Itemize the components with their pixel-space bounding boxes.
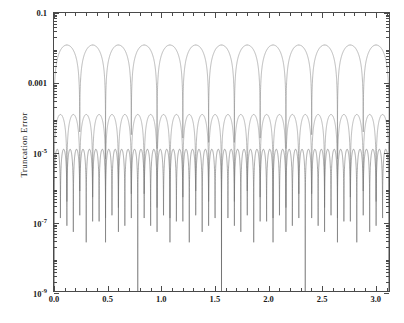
y-axis-minor-tick <box>54 31 57 32</box>
y-axis-tick-label: 10-5 <box>33 147 47 159</box>
y-axis-minor-tick <box>386 196 389 197</box>
y-axis-minor-tick <box>54 126 57 127</box>
y-axis-minor-tick <box>54 50 57 51</box>
x-axis-tick <box>54 13 55 18</box>
plot-area: 0.10.00110-510-710-9 0.00.51.01.52.02.53… <box>53 12 390 292</box>
y-axis-minor-tick <box>54 171 57 172</box>
y-axis-minor-tick <box>386 193 389 194</box>
x-axis-tick <box>322 286 323 291</box>
y-axis-minor-tick <box>54 97 57 98</box>
y-axis-minor-tick <box>386 228 389 229</box>
x-axis-minor-tick <box>204 13 205 16</box>
y-axis-minor-tick <box>386 126 389 127</box>
x-axis-minor-tick <box>118 13 119 16</box>
x-axis-minor-tick <box>333 288 334 291</box>
y-axis-minor-tick <box>386 18 389 19</box>
y-axis-minor-tick <box>386 155 389 156</box>
y-axis-minor-tick <box>386 16 389 17</box>
y-axis-minor-tick <box>386 21 389 22</box>
y-axis-minor-tick <box>386 94 389 95</box>
y-axis-minor-tick <box>386 66 389 67</box>
y-axis-minor-tick <box>386 212 389 213</box>
x-axis-minor-tick <box>65 13 66 16</box>
y-axis-minor-tick <box>54 51 57 52</box>
x-axis-tick <box>215 13 216 18</box>
y-axis-minor-tick <box>386 247 389 248</box>
y-axis-minor-tick <box>54 66 57 67</box>
y-axis-tick <box>384 293 389 294</box>
y-axis-minor-tick <box>386 37 389 38</box>
x-axis-tick <box>269 13 270 18</box>
x-axis-minor-tick <box>258 13 259 16</box>
y-axis-minor-tick <box>54 231 57 232</box>
x-axis-minor-tick <box>204 288 205 291</box>
y-axis-minor-tick <box>54 237 57 238</box>
x-axis-tick <box>161 13 162 18</box>
y-axis-minor-tick <box>54 158 57 159</box>
y-axis-minor-tick <box>386 199 389 200</box>
x-axis-minor-tick <box>311 13 312 16</box>
x-axis-tick <box>376 13 377 18</box>
y-axis-minor-tick <box>386 263 389 264</box>
x-axis-minor-tick <box>183 288 184 291</box>
y-axis-minor-tick <box>54 53 57 54</box>
x-axis-minor-tick <box>247 13 248 16</box>
y-axis-minor-tick <box>386 225 389 226</box>
y-axis-minor-tick <box>54 62 57 63</box>
y-axis-minor-tick <box>386 24 389 25</box>
y-axis-minor-tick <box>54 167 57 168</box>
y-axis-minor-tick <box>386 231 389 232</box>
y-axis-minor-tick <box>54 226 57 227</box>
y-axis-minor-tick <box>54 56 57 57</box>
y-axis-minor-tick <box>54 161 57 162</box>
y-axis-minor-tick <box>54 88 57 89</box>
y-axis-minor-tick <box>54 206 57 207</box>
x-axis-minor-tick <box>75 288 76 291</box>
x-axis-tick <box>269 286 270 291</box>
y-axis-minor-tick <box>386 269 389 270</box>
y-axis-minor-tick <box>54 190 57 191</box>
x-axis-tick <box>215 286 216 291</box>
y-axis-minor-tick <box>386 31 389 32</box>
x-axis-tick <box>322 13 323 18</box>
y-axis-minor-tick <box>54 241 57 242</box>
y-axis-minor-tick <box>54 136 57 137</box>
x-axis-tick-label: 2.0 <box>263 294 274 304</box>
x-axis-minor-tick <box>65 288 66 291</box>
x-axis-minor-tick <box>279 288 280 291</box>
x-axis-minor-tick <box>236 288 237 291</box>
y-axis-minor-tick <box>54 59 57 60</box>
y-axis-minor-tick <box>54 156 57 157</box>
y-axis-minor-tick <box>54 193 57 194</box>
y-axis-minor-tick <box>54 24 57 25</box>
x-axis-minor-tick <box>226 288 227 291</box>
y-axis-minor-tick <box>54 228 57 229</box>
y-axis-minor-tick <box>54 234 57 235</box>
y-axis-minor-tick <box>386 171 389 172</box>
y-axis-minor-tick <box>386 72 389 73</box>
x-axis-tick-label: 1.0 <box>156 294 167 304</box>
y-axis-minor-tick <box>54 272 57 273</box>
x-axis-minor-tick <box>75 13 76 16</box>
x-axis-tick-label: 3.0 <box>370 294 381 304</box>
y-axis-minor-tick <box>54 94 57 95</box>
x-axis-minor-tick <box>354 288 355 291</box>
y-axis-minor-tick <box>54 18 57 19</box>
x-axis-tick <box>108 13 109 18</box>
x-axis-minor-tick <box>258 288 259 291</box>
x-axis-minor-tick <box>354 13 355 16</box>
y-axis-minor-tick <box>386 237 389 238</box>
y-axis-minor-tick <box>386 272 389 273</box>
y-axis-minor-tick <box>54 120 57 121</box>
y-axis-minor-tick <box>386 282 389 283</box>
y-axis-minor-tick <box>386 177 389 178</box>
y-axis-minor-tick <box>386 164 389 165</box>
y-axis-minor-tick <box>54 101 57 102</box>
y-axis-minor-tick <box>54 142 57 143</box>
y-axis-minor-tick <box>386 190 389 191</box>
y-axis-minor-tick <box>386 97 389 98</box>
y-axis-minor-tick <box>54 155 57 156</box>
y-axis-minor-tick <box>386 226 389 227</box>
y-axis-minor-tick <box>386 101 389 102</box>
y-axis-minor-tick <box>54 225 57 226</box>
